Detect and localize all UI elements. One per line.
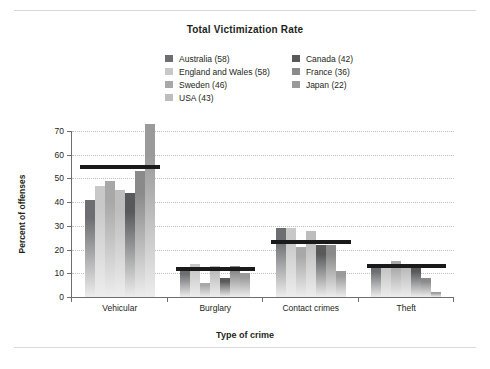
x-axis-group-tick: [262, 297, 263, 302]
x-axis-title: Type of crime: [0, 330, 490, 340]
bar: [210, 266, 220, 297]
y-axis-tick-label: 30: [55, 221, 64, 231]
legend-label: Japan (22): [306, 80, 347, 90]
x-axis-category-label: Theft: [359, 303, 455, 313]
x-axis-group-tick: [167, 297, 168, 302]
legend-label: USA (43): [179, 93, 214, 103]
bar-set: [276, 131, 346, 297]
bar: [220, 278, 230, 297]
chart-title: Total Victimization Rate: [0, 24, 490, 35]
x-axis-labels: VehicularBurglaryContact crimesTheft: [72, 303, 454, 313]
bar: [276, 228, 286, 297]
bar: [336, 271, 346, 297]
bar: [95, 186, 105, 297]
bar: [296, 247, 306, 297]
bar: [105, 181, 115, 297]
plot-area: 010203040506070: [72, 131, 454, 297]
bar-group: [359, 131, 455, 297]
x-axis-group-tick: [358, 297, 359, 302]
y-axis-tick-label: 20: [55, 245, 64, 255]
bar: [411, 266, 421, 297]
legend-item: USA (43): [165, 91, 270, 104]
x-axis-group-tick: [453, 297, 454, 302]
legend-label: Canada (42): [306, 54, 353, 64]
y-axis-tick-label: 40: [55, 197, 64, 207]
y-axis-tick-label: 50: [55, 173, 64, 183]
bar: [240, 273, 250, 297]
bar: [135, 171, 145, 297]
legend-item: Japan (22): [292, 78, 353, 91]
bar: [180, 269, 190, 297]
legend-label: Australia (58): [179, 54, 230, 64]
bar: [286, 228, 296, 297]
bar: [371, 266, 381, 297]
bar: [401, 264, 411, 297]
bar-group: [72, 131, 168, 297]
y-axis-tick-label: 60: [55, 150, 64, 160]
bar: [115, 190, 125, 297]
x-axis-category-label: Contact crimes: [263, 303, 359, 313]
legend-item: Canada (42): [292, 52, 353, 65]
bar: [316, 245, 326, 297]
reference-line: [367, 264, 447, 268]
legend-item: Sweden (46): [165, 78, 270, 91]
legend-swatch-icon: [165, 81, 173, 88]
x-axis-category-label: Vehicular: [72, 303, 168, 313]
legend-swatch-icon: [292, 55, 300, 62]
bar-group: [263, 131, 359, 297]
bar: [230, 266, 240, 297]
legend-swatch-icon: [292, 68, 300, 75]
bar-group: [168, 131, 264, 297]
bar: [125, 193, 135, 297]
legend-label: Sweden (46): [179, 80, 227, 90]
legend-swatch-icon: [165, 55, 173, 62]
bar: [145, 124, 155, 297]
bottom-divider: [14, 347, 476, 348]
bar: [85, 200, 95, 297]
bar-set: [371, 131, 441, 297]
reference-line: [80, 165, 160, 169]
y-axis-title: Percent of offenses: [17, 175, 27, 254]
y-axis-tick-label: 70: [55, 126, 64, 136]
bar: [200, 283, 210, 297]
y-axis-tick-label: 10: [55, 268, 64, 278]
legend-swatch-icon: [165, 68, 173, 75]
legend-item: France (36): [292, 65, 353, 78]
top-divider: [14, 10, 476, 11]
reference-line: [271, 240, 351, 244]
bar: [431, 292, 441, 297]
legend-item: England and Wales (58): [165, 65, 270, 78]
legend-label: France (36): [306, 67, 350, 77]
chart-legend: Australia (58)England and Wales (58)Swed…: [165, 52, 353, 104]
bar-groups: [72, 131, 454, 297]
legend-column-right: Canada (42)France (36)Japan (22): [292, 52, 353, 104]
bar-set: [180, 131, 250, 297]
legend-swatch-icon: [165, 94, 173, 101]
bar: [381, 266, 391, 297]
reference-line: [176, 267, 256, 271]
bar: [421, 278, 431, 297]
bar-set: [85, 131, 155, 297]
legend-column-left: Australia (58)England and Wales (58)Swed…: [165, 52, 270, 104]
bar: [326, 245, 336, 297]
y-axis-tick-label: 0: [59, 292, 64, 302]
legend-item: Australia (58): [165, 52, 270, 65]
legend-label: England and Wales (58): [179, 67, 270, 77]
x-axis-category-label: Burglary: [168, 303, 264, 313]
legend-swatch-icon: [292, 81, 300, 88]
x-axis-group-tick: [71, 297, 72, 302]
